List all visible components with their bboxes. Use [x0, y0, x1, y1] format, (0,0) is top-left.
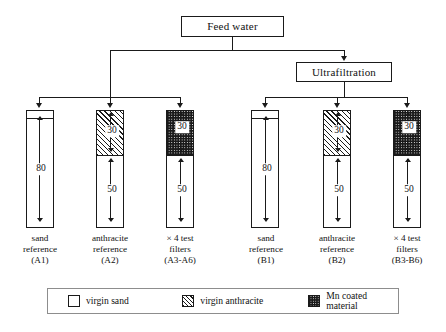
- legend-item-mn-coated-material: Mn coated material: [308, 291, 398, 310]
- feed-water-trunk-line: [232, 37, 233, 51]
- arrowhead-down-a3-bottom: [178, 218, 184, 222]
- caption-a3-line3: (A3-A6): [134, 255, 226, 266]
- inlet-arrow-b3: [404, 103, 410, 108]
- virgin-anthracite-swatch-icon: [182, 295, 194, 307]
- caption-b3-line1: × 4 test: [361, 233, 446, 244]
- arrowhead-down-b2-top: [335, 148, 341, 152]
- manifold-b-line: [265, 97, 407, 98]
- depth-label-a2-top: 30: [105, 125, 119, 137]
- arrowhead-down-b2-bottom: [335, 218, 341, 222]
- arrowhead-up-a3-bottom: [178, 158, 184, 162]
- depth-label-a3-bottom: 50: [175, 184, 189, 196]
- caption-b3-line2: filters: [361, 244, 446, 255]
- depth-label-b2-bottom: 50: [332, 184, 346, 196]
- arrowhead-up-a2-top: [108, 112, 114, 116]
- arrowhead-up-b2-top: [335, 112, 341, 116]
- arrowhead-down-b1: [263, 218, 269, 222]
- arrowhead-down-a3-top: [178, 148, 184, 152]
- arrowhead-up-a3-top: [178, 112, 184, 116]
- arrowhead-up-a2-bottom: [108, 158, 114, 162]
- legend-item-virgin-sand: virgin sand: [68, 295, 182, 307]
- inlet-arrow-a1: [36, 103, 42, 108]
- caption-a3-a6: × 4 test filters (A3-A6): [134, 233, 226, 266]
- inlet-arrow-b2: [334, 103, 340, 108]
- feed-water-label: Feed water: [207, 21, 258, 32]
- arrowhead-up-b3-bottom: [405, 158, 411, 162]
- depth-label-b2-top: 30: [332, 125, 346, 137]
- depth-label-b3-bottom: 50: [402, 184, 416, 196]
- depth-label-a3-top: 30: [175, 121, 189, 133]
- main-split-horizontal-line: [110, 50, 345, 51]
- legend: virgin sand virgin anthracite Mn coated …: [47, 288, 399, 314]
- virgin-sand-swatch-icon: [68, 295, 80, 307]
- arrowhead-up-b2-bottom: [335, 158, 341, 162]
- inlet-arrow-a3: [177, 103, 183, 108]
- ultrafiltration-inlet-arrow: [341, 56, 347, 61]
- arrowhead-down-b3-bottom: [405, 218, 411, 222]
- legend-item-virgin-anthracite: virgin anthracite: [182, 295, 308, 307]
- mn-coated-material-swatch-icon: [308, 295, 320, 307]
- depth-label-a2-bottom: 50: [105, 184, 119, 196]
- caption-a3-line2: filters: [134, 244, 226, 255]
- caption-b3-b6: × 4 test filters (B3-B6): [361, 233, 446, 266]
- process-flow-diagram: Feed water Ultrafiltration 80 sand refer…: [0, 0, 446, 332]
- legend-label-virgin-sand: virgin sand: [86, 296, 129, 306]
- arrowhead-up-b1: [263, 116, 269, 120]
- legend-label-virgin-anthracite: virgin anthracite: [200, 296, 263, 306]
- arrowhead-down-a2-bottom: [108, 218, 114, 222]
- arrowhead-down-a1: [37, 218, 43, 222]
- depth-label-b3-top: 30: [402, 121, 416, 133]
- legend-label-mn-coated-material: Mn coated material: [326, 291, 398, 310]
- feed-water-node[interactable]: Feed water: [181, 16, 284, 37]
- depth-label-a1: 80: [34, 163, 48, 175]
- caption-b3-line3: (B3-B6): [361, 255, 446, 266]
- inlet-arrow-a2: [107, 103, 113, 108]
- arrowhead-down-b3-top: [405, 148, 411, 152]
- manifold-a-riser: [110, 90, 111, 97]
- arrowhead-up-a1: [37, 116, 43, 120]
- ultrafiltration-label: Ultrafiltration: [312, 67, 376, 78]
- arrowhead-up-b3-top: [405, 112, 411, 116]
- caption-a3-line1: × 4 test: [134, 233, 226, 244]
- inlet-arrow-b1: [262, 103, 268, 108]
- depth-label-b1: 80: [260, 163, 274, 175]
- manifold-b-riser: [344, 90, 345, 97]
- ultrafiltration-node[interactable]: Ultrafiltration: [296, 62, 392, 82]
- arrowhead-down-a2-top: [108, 148, 114, 152]
